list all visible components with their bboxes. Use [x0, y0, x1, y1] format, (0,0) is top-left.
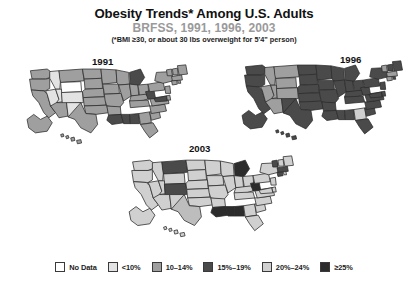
legend-item: <10% [108, 262, 141, 272]
state-co [164, 183, 186, 195]
state-hi-isle-2 [174, 230, 178, 234]
state-tn [345, 96, 365, 104]
state-fl [245, 215, 263, 230]
state-nd [297, 65, 316, 75]
state-ar [322, 102, 336, 111]
state-ok [188, 197, 213, 206]
legend-item: No Data [55, 262, 97, 272]
state-ga [244, 204, 257, 217]
state-md [154, 96, 167, 102]
state-al [130, 114, 140, 124]
state-al [345, 110, 355, 120]
state-mo [319, 89, 338, 103]
state-hi-isle-2 [71, 137, 75, 141]
legend-swatch-icon [262, 262, 272, 272]
legend-swatch-icon [55, 262, 65, 272]
state-wa [30, 69, 50, 79]
state-ks [187, 189, 210, 198]
legend-item: 20%–24% [262, 262, 309, 272]
state-wy [276, 78, 297, 89]
state-fl [140, 123, 158, 138]
state-hi-isle-1 [66, 135, 69, 138]
state-me [283, 156, 293, 166]
state-co [276, 88, 298, 100]
state-or [30, 78, 50, 91]
choropleth-map-2003 [124, 152, 296, 244]
state-in [345, 80, 354, 92]
state-ga [139, 112, 152, 125]
page-title: Obesity Trends* Among U.S. Adults [0, 6, 408, 21]
state-mn [205, 160, 221, 175]
state-ia [207, 176, 224, 186]
state-hi-isle-0 [276, 130, 279, 133]
state-hi-isle-2 [286, 133, 290, 137]
state-mo [104, 93, 123, 107]
state-wi [116, 70, 129, 85]
state-co [61, 92, 83, 104]
state-mi [130, 69, 145, 86]
state-nh [172, 68, 178, 75]
state-or [245, 74, 265, 87]
state-md [369, 92, 382, 98]
state-wi [331, 66, 344, 81]
state-me [392, 61, 402, 71]
legend-item: ≥25% [320, 262, 353, 272]
map-year-label-2003: 2003 [189, 143, 210, 154]
state-hi-isle-0 [61, 134, 64, 137]
legend-item-label: ≥25% [334, 263, 353, 272]
state-ar [107, 106, 121, 115]
state-hi-isle-3 [292, 136, 297, 140]
state-ne [297, 84, 319, 93]
state-hi-isle-3 [77, 140, 82, 144]
state-nj [165, 86, 171, 94]
state-in [130, 84, 139, 96]
state-mi [345, 65, 360, 82]
choropleth-map-1991 [22, 62, 190, 150]
state-de [272, 187, 276, 192]
state-sd [188, 170, 207, 181]
state-mt [59, 69, 84, 82]
state-la [322, 110, 339, 120]
map-year-label-1991: 1991 [92, 56, 113, 67]
state-al [234, 206, 244, 216]
state-ia [318, 80, 335, 90]
state-ok [84, 105, 108, 114]
state-nd [82, 69, 101, 79]
state-nd [186, 160, 206, 170]
figure-subtitle: BRFSS, 1991, 1996, 2003 [0, 21, 408, 35]
state-ne [186, 180, 208, 189]
state-de [381, 91, 385, 96]
state-ga [354, 108, 367, 121]
legend-swatch-icon [320, 262, 330, 272]
state-mo [208, 185, 228, 200]
state-fl [355, 119, 373, 134]
state-sd [84, 78, 102, 89]
state-wa [133, 160, 154, 170]
legend-swatch-icon [203, 262, 213, 272]
choropleth-map-1996 [237, 58, 405, 146]
state-mn [101, 69, 117, 84]
legend-item-label: <10% [122, 263, 141, 272]
state-ak [242, 110, 267, 128]
state-ks [83, 97, 106, 106]
state-hi-isle-1 [281, 131, 284, 134]
figure-canvas: Obesity Trends* Among U.S. Adults BRFSS,… [0, 0, 408, 295]
state-ar [211, 198, 226, 207]
state-mn [316, 65, 332, 80]
legend-item: 15%–19% [203, 262, 250, 272]
state-nj [380, 82, 386, 90]
state-ma [387, 71, 398, 77]
legend-item-label: 15%–19% [217, 263, 250, 272]
state-hi-isle-1 [169, 228, 172, 231]
state-nj [270, 177, 276, 185]
state-mt [274, 65, 299, 78]
legend: No Data <10% 10–14% 15%–19% 20%–24% ≥25% [0, 262, 408, 272]
state-hi-isle-0 [164, 226, 167, 229]
state-ak [27, 114, 52, 132]
legend-item-label: No Data [69, 263, 97, 272]
state-hi-isle-3 [180, 232, 185, 236]
state-ma [172, 75, 183, 81]
state-vt [381, 65, 387, 72]
state-la [107, 114, 124, 124]
state-tn [130, 100, 150, 108]
